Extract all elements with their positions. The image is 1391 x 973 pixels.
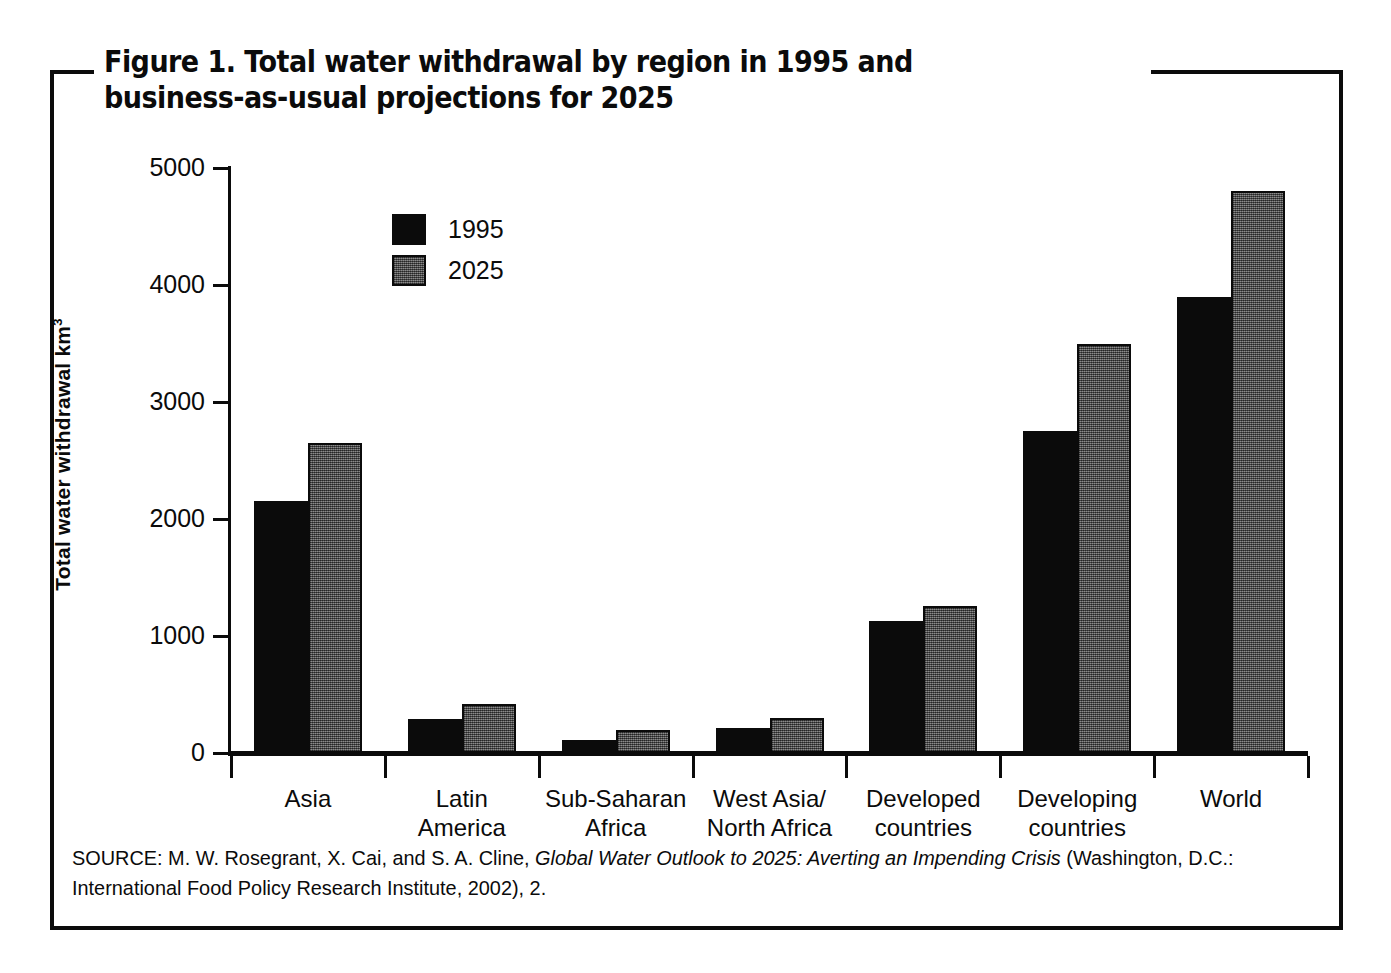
- category-label-line: World: [1116, 784, 1346, 813]
- legend-swatch-1995: [392, 214, 426, 245]
- y-axis-tick-label: 3000: [100, 389, 205, 414]
- y-axis-tick: [213, 167, 229, 170]
- y-axis-tick-label-text: 5000: [109, 155, 205, 180]
- y-axis-tick-label-text: 4000: [109, 272, 205, 297]
- source-note: SOURCE: M. W. Rosegrant, X. Cai, and S. …: [72, 843, 1285, 903]
- legend-swatch-2025: [392, 255, 426, 286]
- y-axis-title-superscript: 3: [50, 318, 65, 325]
- x-axis-tick: [692, 756, 695, 778]
- bar-1995-sub-saharan-africa: [562, 740, 616, 753]
- bar-1995-asia: [254, 501, 308, 753]
- y-axis-tick: [213, 284, 229, 287]
- source-note-prefix: SOURCE: M. W. Rosegrant, X. Cai, and S. …: [72, 846, 535, 869]
- y-axis-title-text: Total water withdrawal km: [51, 326, 74, 591]
- y-axis-tick-label: 2000: [100, 506, 205, 531]
- y-axis-tick-label: 0: [100, 740, 205, 765]
- y-axis-tick: [213, 635, 229, 638]
- bar-2025-developed-countries: [923, 606, 977, 753]
- y-axis-tick: [213, 518, 229, 521]
- legend-item-1995: 1995: [392, 209, 504, 250]
- y-axis-tick-label: 5000: [100, 155, 205, 180]
- bar-1995-latin-america: [408, 719, 462, 753]
- y-axis-tick-label-text: 1000: [109, 623, 205, 648]
- y-axis-tick-label: 1000: [100, 623, 205, 648]
- x-axis-tick: [845, 756, 848, 778]
- y-axis-tick-label-text: 2000: [109, 506, 205, 531]
- x-axis-tick: [1153, 756, 1156, 778]
- bar-2025-developing-countries: [1077, 344, 1131, 754]
- y-axis-tick-label-text: 3000: [109, 389, 205, 414]
- bar-1995-west-asia-north-africa: [716, 728, 770, 753]
- y-axis-title: Total water withdrawal km3: [50, 245, 75, 665]
- x-axis-tick: [538, 756, 541, 778]
- chart-legend: 1995 2025: [392, 209, 504, 291]
- x-axis-tick: [384, 756, 387, 778]
- bar-2025-sub-saharan-africa: [616, 730, 670, 753]
- x-axis-tick: [1307, 756, 1310, 778]
- figure-page: Figure 1. Total water withdrawal by regi…: [0, 0, 1391, 973]
- bar-2025-west-asia-north-africa: [770, 718, 824, 753]
- bar-1995-developed-countries: [869, 621, 923, 753]
- chart-plot-area: Total water withdrawal km3 0100020003000…: [0, 0, 1391, 973]
- legend-label-2025: 2025: [448, 258, 504, 283]
- bar-2025-world: [1231, 191, 1285, 753]
- bar-1995-developing-countries: [1023, 431, 1077, 753]
- bar-2025-asia: [308, 443, 362, 753]
- x-axis-tick: [999, 756, 1002, 778]
- y-axis-tick: [213, 752, 229, 755]
- bar-2025-latin-america: [462, 704, 516, 753]
- source-note-title: Global Water Outlook to 2025: Averting a…: [535, 846, 1061, 869]
- legend-label-1995: 1995: [448, 217, 504, 242]
- bar-1995-world: [1177, 297, 1231, 753]
- legend-item-2025: 2025: [392, 250, 504, 291]
- y-axis-tick-label: 4000: [100, 272, 205, 297]
- y-axis-tick-label-text: 0: [109, 740, 205, 765]
- y-axis-line: [228, 166, 231, 755]
- y-axis-tick: [213, 401, 229, 404]
- category-label-line: countries: [962, 813, 1192, 842]
- x-axis-tick: [230, 756, 233, 778]
- category-label: World: [1116, 784, 1346, 813]
